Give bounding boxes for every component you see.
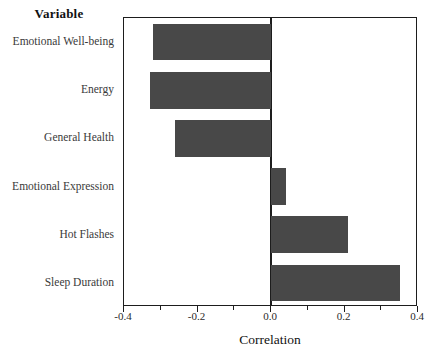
correlation-bar-chart: Variable Emotional Well-beingEnergyGener…: [0, 0, 440, 360]
x-tick-label: 0.0: [263, 310, 277, 322]
bar: [175, 120, 271, 157]
bar: [271, 216, 348, 253]
plot-frame: [123, 17, 417, 306]
bar: [150, 72, 271, 109]
x-tick-label: 0.4: [410, 310, 424, 322]
x-tick-minor: [233, 306, 234, 310]
category-label: Sleep Duration: [0, 276, 114, 288]
bar: [271, 265, 400, 302]
category-label: General Health: [0, 131, 114, 143]
x-axis-tick-labels: -0.4-0.20.00.20.4: [123, 310, 417, 328]
bar: [153, 24, 271, 61]
category-label: Energy: [0, 83, 114, 95]
zero-baseline: [270, 18, 271, 305]
x-tick-label: 0.2: [337, 310, 351, 322]
x-tick-minor: [380, 306, 381, 310]
x-tick-minor: [307, 306, 308, 310]
category-label: Emotional Expression: [0, 180, 114, 192]
category-label: Emotional Well-being: [0, 35, 114, 47]
bar: [271, 168, 286, 205]
x-axis-title: Correlation: [123, 332, 417, 348]
category-label-column: Emotional Well-beingEnergyGeneral Health…: [0, 17, 118, 306]
x-tick-label: -0.4: [114, 310, 131, 322]
plot-area: [124, 18, 416, 305]
x-tick-minor: [160, 306, 161, 310]
x-tick-label: -0.2: [188, 310, 205, 322]
category-label: Hot Flashes: [0, 228, 114, 240]
